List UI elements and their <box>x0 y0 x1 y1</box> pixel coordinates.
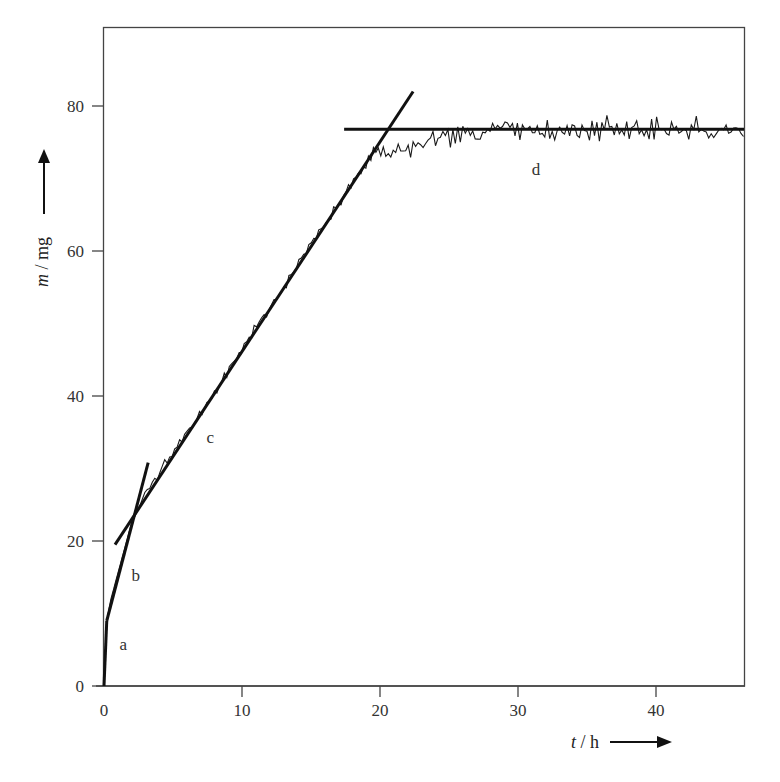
svg-text:m / mg: m / mg <box>32 237 52 287</box>
x-tick-label: 40 <box>648 701 665 720</box>
y-axis-label-slash: / <box>32 260 52 274</box>
x-tick-label: 30 <box>510 701 527 720</box>
y-axis-ticks: 020406080 <box>67 97 103 696</box>
x-axis-label-unit: h <box>590 732 599 752</box>
fit-lines <box>104 92 744 687</box>
plot-frame <box>104 28 745 687</box>
x-tick-label: 20 <box>372 701 389 720</box>
y-tick-label: 60 <box>67 242 84 261</box>
x-axis-label-slash: / <box>576 732 590 752</box>
fit-line-a <box>104 621 107 686</box>
y-tick-label: 40 <box>67 387 84 406</box>
y-axis-label-group: m / mg <box>32 237 52 287</box>
region-label-a: a <box>120 635 128 654</box>
region-label-b: b <box>131 566 140 585</box>
x-tick-label: 0 <box>100 701 109 720</box>
region-labels: abcd <box>120 160 541 654</box>
y-axis-arrow-icon <box>38 149 50 214</box>
fit-line-c <box>115 92 413 545</box>
region-label-d: d <box>532 160 541 179</box>
y-tick-label: 80 <box>67 97 84 116</box>
x-axis-ticks: 010203040 <box>100 686 665 720</box>
mass-vs-time-chart: 020406080 010203040 m / mg t / h abcd <box>0 0 780 782</box>
x-tick-label: 10 <box>234 701 251 720</box>
plot-area <box>104 92 744 687</box>
y-axis-label-unit: mg <box>32 237 52 260</box>
x-axis-arrow-icon <box>610 736 672 748</box>
y-tick-label: 0 <box>76 677 85 696</box>
x-axis-label: t / h <box>571 732 599 752</box>
y-tick-label: 20 <box>67 532 84 551</box>
y-axis-label-var: m <box>32 274 52 287</box>
measured-data-line <box>104 115 744 686</box>
fit-line-b <box>107 463 148 621</box>
region-label-c: c <box>206 428 214 447</box>
